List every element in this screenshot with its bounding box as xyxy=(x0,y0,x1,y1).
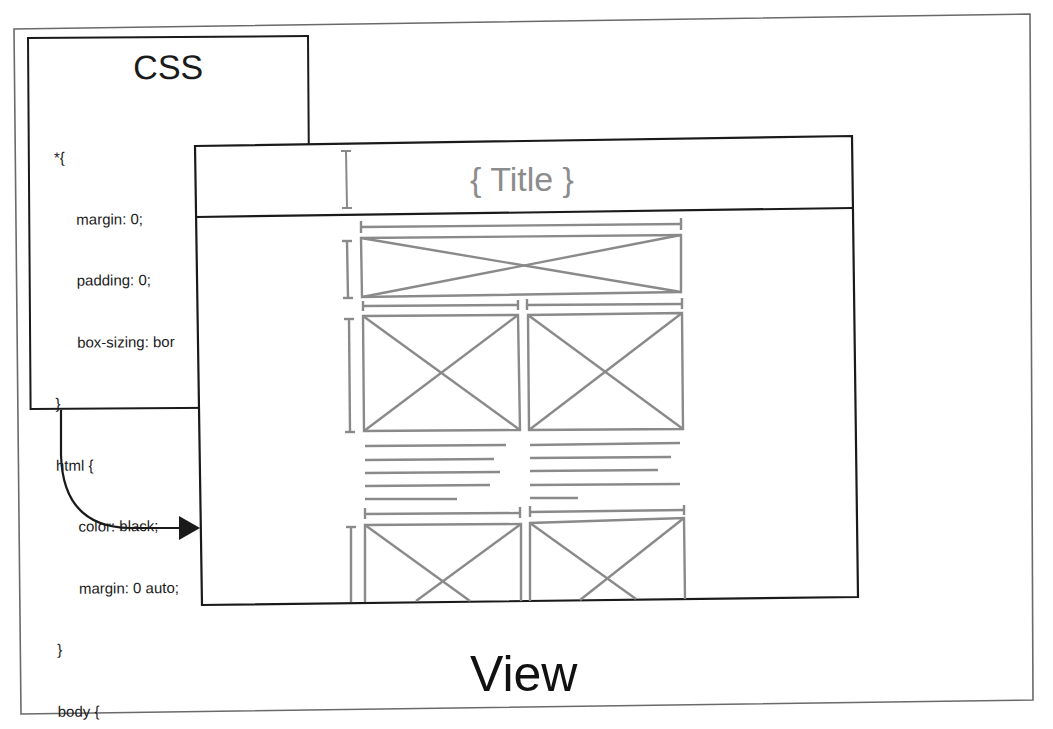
arrow-connector xyxy=(61,410,200,540)
arrowhead-icon xyxy=(179,516,200,540)
frame-label: View xyxy=(470,645,577,703)
view-layer xyxy=(0,0,1053,729)
view-header-title: { Title } xyxy=(470,160,574,199)
view-window xyxy=(195,136,858,605)
